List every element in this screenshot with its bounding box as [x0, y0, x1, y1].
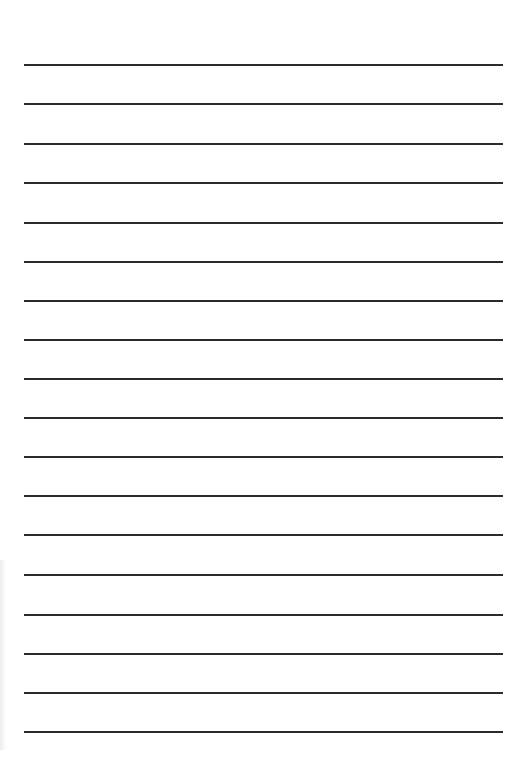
ruled-line — [24, 143, 503, 145]
ruled-line — [24, 261, 503, 263]
ruled-line — [24, 339, 503, 341]
page-edge-shadow — [0, 560, 6, 750]
ruled-line — [24, 64, 503, 66]
ruled-line — [24, 417, 503, 419]
ruled-line — [24, 222, 503, 224]
ruled-line — [24, 103, 503, 105]
ruled-line — [24, 300, 503, 302]
ruled-line — [24, 495, 503, 497]
ruled-line — [24, 378, 503, 380]
ruled-line — [24, 456, 503, 458]
ruled-line — [24, 692, 503, 694]
ruled-line — [24, 731, 503, 733]
lined-paper-page — [0, 0, 523, 771]
ruled-line — [24, 534, 503, 536]
ruled-line — [24, 614, 503, 616]
ruled-line — [24, 574, 503, 576]
ruled-line — [24, 182, 503, 184]
ruled-line — [24, 653, 503, 655]
